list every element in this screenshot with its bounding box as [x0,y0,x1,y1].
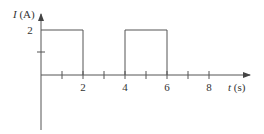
y-tick-label-2: 2 [27,24,33,36]
pulse-2 [125,30,167,75]
x-tick-label-2: 2 [80,81,86,93]
current-waveform-chart: I (A) 2 2 4 6 8 t (s) [0,0,264,134]
x-tick-label-4: 4 [122,81,128,93]
x-axis-label: t (s) [228,81,246,94]
x-tick-label-6: 6 [164,81,170,93]
y-axis-label: I (A) [12,8,35,21]
x-tick-label-8: 8 [206,81,212,93]
pulse-1 [41,30,83,75]
